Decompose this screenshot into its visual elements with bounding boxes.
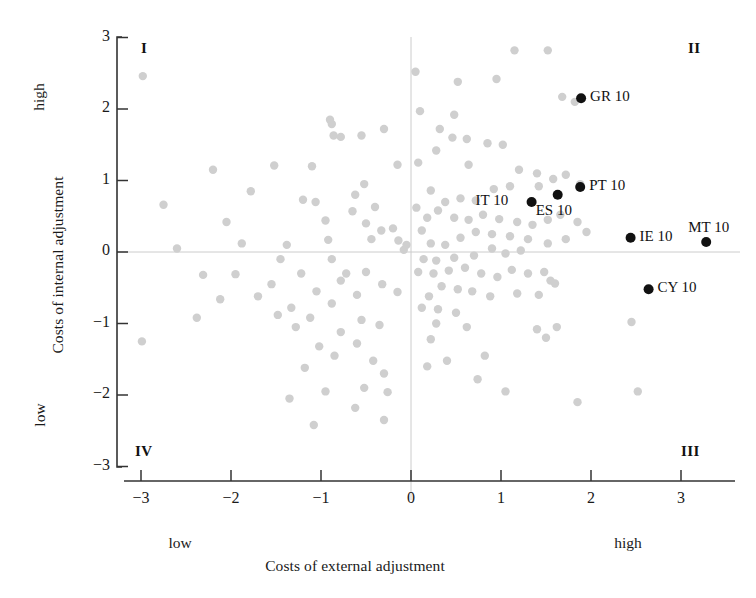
data-point bbox=[393, 288, 401, 296]
data-point bbox=[437, 282, 445, 290]
highlighted-data-point[interactable] bbox=[701, 237, 711, 247]
data-point bbox=[524, 269, 532, 277]
data-point bbox=[414, 268, 422, 276]
data-point bbox=[276, 255, 284, 263]
data-point bbox=[524, 235, 532, 243]
data-point bbox=[464, 161, 472, 169]
x-tick-label: 0 bbox=[394, 489, 428, 507]
data-point bbox=[479, 211, 487, 219]
data-point bbox=[362, 219, 370, 227]
x-tick-label: 1 bbox=[484, 489, 518, 507]
data-point bbox=[328, 299, 336, 307]
data-point bbox=[553, 323, 561, 331]
data-point bbox=[369, 356, 377, 364]
data-point bbox=[429, 269, 437, 277]
data-point bbox=[481, 351, 489, 359]
highlighted-data-point[interactable] bbox=[553, 190, 563, 200]
data-point bbox=[427, 335, 435, 343]
data-point bbox=[533, 169, 541, 177]
data-point bbox=[513, 289, 521, 297]
data-point bbox=[337, 276, 345, 284]
data-point bbox=[463, 323, 471, 331]
data-point bbox=[270, 161, 278, 169]
highlighted-data-point[interactable] bbox=[626, 233, 636, 243]
x-tick-label: 3 bbox=[664, 489, 698, 507]
highlighted-data-point[interactable] bbox=[575, 182, 585, 192]
data-point bbox=[238, 239, 246, 247]
data-point bbox=[383, 388, 391, 396]
data-point bbox=[419, 255, 427, 263]
data-point bbox=[558, 93, 566, 101]
plot-area: 3210−1−2−3 −3−2−10123 IIIIIIIV GR 10PT 1… bbox=[0, 0, 756, 598]
data-point bbox=[416, 107, 424, 115]
data-point bbox=[562, 235, 570, 243]
data-point bbox=[454, 285, 462, 293]
data-point bbox=[292, 323, 300, 331]
data-point bbox=[427, 186, 435, 194]
x-axis-ticks bbox=[141, 470, 681, 481]
data-point bbox=[452, 309, 460, 317]
data-point bbox=[477, 269, 485, 277]
data-point bbox=[501, 249, 509, 257]
data-point bbox=[425, 292, 433, 300]
data-point bbox=[533, 325, 541, 333]
data-point bbox=[328, 255, 336, 263]
data-point bbox=[357, 131, 365, 139]
data-point bbox=[535, 182, 543, 190]
data-point bbox=[517, 246, 525, 254]
data-point bbox=[377, 226, 385, 234]
data-point bbox=[353, 291, 361, 299]
y-tick-label: −3 bbox=[78, 456, 110, 474]
data-point bbox=[432, 146, 440, 154]
zero-reference-lines bbox=[117, 37, 740, 500]
data-point bbox=[247, 187, 255, 195]
data-point bbox=[450, 213, 458, 221]
data-point bbox=[464, 216, 472, 224]
data-point bbox=[326, 116, 334, 124]
data-point bbox=[297, 269, 305, 277]
data-point bbox=[562, 171, 570, 179]
data-point bbox=[360, 180, 368, 188]
data-point bbox=[461, 264, 469, 272]
data-point bbox=[432, 319, 440, 327]
point-label: ES 10 bbox=[536, 202, 572, 219]
data-point bbox=[456, 194, 464, 202]
y-tick-label: −2 bbox=[78, 384, 110, 402]
data-point bbox=[468, 287, 476, 295]
highlighted-data-point[interactable] bbox=[576, 93, 586, 103]
point-label: PT 10 bbox=[589, 177, 625, 194]
data-point bbox=[380, 416, 388, 424]
data-point bbox=[321, 387, 329, 395]
y-tick-label: 1 bbox=[78, 170, 110, 188]
point-label: IT 10 bbox=[476, 192, 509, 209]
data-point bbox=[540, 268, 548, 276]
data-point bbox=[634, 387, 642, 395]
x-tick-label: −3 bbox=[124, 489, 158, 507]
x-axis-title: Costs of external adjustment bbox=[205, 557, 505, 575]
data-point bbox=[199, 271, 207, 279]
y-tick-label: 3 bbox=[78, 27, 110, 45]
data-point bbox=[454, 78, 462, 86]
data-point bbox=[436, 125, 444, 133]
highlighted-data-point[interactable] bbox=[644, 284, 654, 294]
data-point bbox=[353, 339, 361, 347]
data-point bbox=[216, 295, 224, 303]
data-point bbox=[432, 256, 440, 264]
data-point bbox=[542, 334, 550, 342]
data-point bbox=[254, 292, 262, 300]
data-point bbox=[193, 314, 201, 322]
quadrant-I: I bbox=[141, 40, 147, 57]
scatter-plot-figure: 3210−1−2−3 −3−2−10123 IIIIIIIV GR 10PT 1… bbox=[0, 0, 756, 598]
data-point bbox=[285, 394, 293, 402]
data-point bbox=[423, 213, 431, 221]
data-point bbox=[450, 111, 458, 119]
data-point bbox=[371, 203, 379, 211]
data-point bbox=[535, 291, 543, 299]
data-point bbox=[394, 236, 402, 244]
data-point bbox=[472, 228, 480, 236]
y-tick-label: −1 bbox=[78, 313, 110, 331]
data-point bbox=[222, 218, 230, 226]
data-point bbox=[434, 206, 442, 214]
data-point bbox=[209, 166, 217, 174]
data-point bbox=[329, 131, 337, 139]
